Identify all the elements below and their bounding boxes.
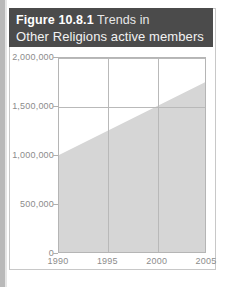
y-axis-tick-mark xyxy=(53,253,58,254)
x-axis-tick-label: 2000 xyxy=(146,256,167,266)
x-axis-tick-label: 1990 xyxy=(48,256,69,266)
figure-root: Figure 10.8.1 Trends in Other Religions … xyxy=(0,0,227,287)
y-axis-tick-label: 2,000,000 xyxy=(12,52,54,62)
gridline-vertical xyxy=(108,58,109,252)
y-axis-tick-label: 1,000,000 xyxy=(12,150,54,160)
y-axis-labels: 0500,0001,000,0001,500,0002,000,000 xyxy=(9,57,54,253)
area-series xyxy=(59,58,205,252)
x-axis-tick-label: 2005 xyxy=(196,256,217,266)
figure-label: Figure xyxy=(16,13,55,27)
y-axis-tick-label: 500,000 xyxy=(20,199,54,209)
x-axis-labels: 1990199520002005 xyxy=(58,256,206,272)
x-axis-tick-label: 1995 xyxy=(97,256,118,266)
chart-body: 0500,0001,000,0001,500,0002,000,000 1990… xyxy=(9,47,216,270)
plot-area xyxy=(58,57,206,253)
gridline-vertical xyxy=(158,58,159,252)
y-axis-tick-label: 1,500,000 xyxy=(12,101,54,111)
page-edge-inner-artifact xyxy=(5,0,7,287)
figure-title-line-1: Figure 10.8.1 Trends in xyxy=(16,12,207,28)
figure-title-bar: Figure 10.8.1 Trends in Other Religions … xyxy=(9,8,213,47)
figure-title-line-2: Other Religions active members xyxy=(16,28,207,45)
figure-title-part-1: Trends in xyxy=(97,13,150,27)
gridline-horizontal xyxy=(59,107,205,108)
figure-number: 10.8.1 xyxy=(58,13,93,27)
gridline-horizontal xyxy=(59,58,205,59)
